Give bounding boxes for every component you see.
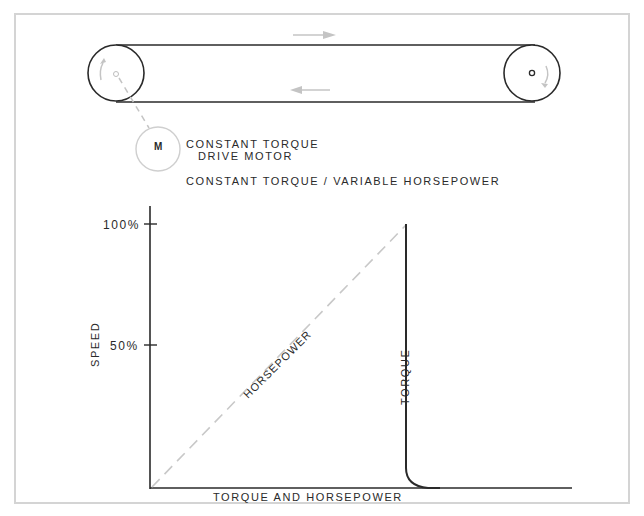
diagram-canvas: [0, 0, 644, 516]
chart-axes: [144, 206, 572, 489]
drive-pulley: [88, 45, 144, 101]
y-axis-label: SPEED: [89, 322, 101, 367]
torque-label: TORQUE: [399, 349, 411, 405]
belt-arrow-bottom-icon: [290, 86, 330, 94]
diagram-subtitle: CONSTANT TORQUE / VARIABLE HORSEPOWER: [186, 175, 500, 187]
belt-arrow-top-icon: [293, 31, 336, 39]
idler-pulley: [504, 45, 560, 101]
x-axis-label: TORQUE AND HORSEPOWER: [213, 491, 403, 503]
y-tick-50: 50%: [110, 339, 139, 353]
motor-caption-line2: DRIVE MOTOR: [198, 150, 293, 162]
torque-line: [406, 224, 440, 488]
conveyor-belt: [116, 45, 535, 102]
motor-caption-line1: CONSTANT TORQUE: [186, 138, 319, 150]
y-tick-100: 100%: [103, 218, 140, 232]
motor-label: M: [154, 141, 162, 152]
